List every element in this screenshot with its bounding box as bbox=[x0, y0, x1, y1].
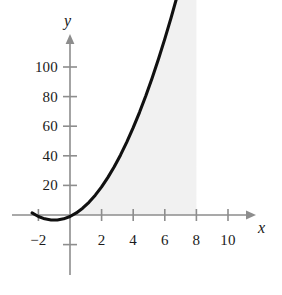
y-tick-label: 80 bbox=[43, 88, 58, 105]
x-tick-label: −2 bbox=[30, 232, 46, 249]
shaded-area-under-curve bbox=[70, 0, 196, 216]
x-tick-label: 2 bbox=[98, 232, 106, 249]
y-axis bbox=[63, 34, 77, 275]
y-tick-label: 20 bbox=[43, 177, 58, 194]
y-tick-label: 60 bbox=[43, 118, 58, 135]
y-axis-label: y bbox=[64, 12, 71, 30]
x-tick-label: 10 bbox=[220, 232, 235, 249]
x-tick-label: 8 bbox=[193, 232, 201, 249]
chart-figure: y x −224681020406080100 bbox=[0, 0, 282, 295]
x-axis-label: x bbox=[258, 219, 265, 237]
x-tick-label: 4 bbox=[129, 232, 137, 249]
y-tick-label: 100 bbox=[35, 59, 58, 76]
x-tick-label: 6 bbox=[161, 232, 169, 249]
y-tick-label: 40 bbox=[43, 147, 58, 164]
